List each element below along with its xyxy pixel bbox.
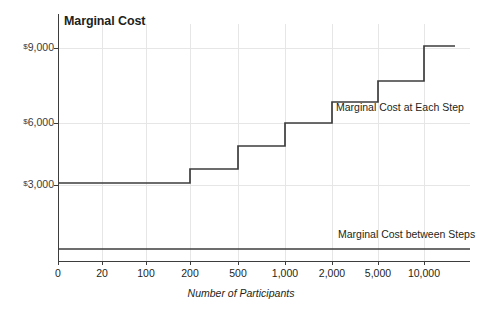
y-tick-label-6000: $6,000 — [2, 116, 54, 128]
horizontal-gridlines — [58, 49, 470, 186]
series-marginal-cost-at-each-step — [58, 46, 455, 183]
annotation-marginal-cost-at-each-step: Marginal Cost at Each Step — [336, 101, 464, 113]
x-tick-label-5000: 5,000 — [365, 267, 391, 279]
x-tick-label-500: 500 — [229, 267, 247, 279]
x-tick-label-2000: 2,000 — [319, 267, 345, 279]
axes — [58, 14, 470, 262]
x-tick-label-200: 200 — [181, 267, 199, 279]
annotation-marginal-cost-between-steps: Marginal Cost between Steps — [338, 228, 475, 240]
x-tick-label-0: 0 — [55, 267, 61, 279]
y-axis-ticks — [54, 49, 58, 186]
y-axis-tick-labels: $9,000 $6,000 $3,000 — [0, 0, 54, 310]
x-tick-label-20: 20 — [96, 267, 108, 279]
chart-plot-area — [0, 0, 485, 310]
x-axis-title: Number of Participants — [58, 287, 424, 299]
x-tick-label-100: 100 — [137, 267, 155, 279]
x-tick-label-1000: 1,000 — [272, 267, 298, 279]
y-tick-label-9000: $9,000 — [2, 41, 54, 53]
vertical-gridlines — [103, 24, 425, 261]
y-tick-label-3000: $3,000 — [2, 178, 54, 190]
chart-title: Marginal Cost — [64, 14, 145, 28]
x-tick-label-10000: 10,000 — [408, 267, 440, 279]
marginal-cost-chart: Marginal Cost $9,000 $6,000 $3,000 0 20 … — [0, 0, 485, 310]
